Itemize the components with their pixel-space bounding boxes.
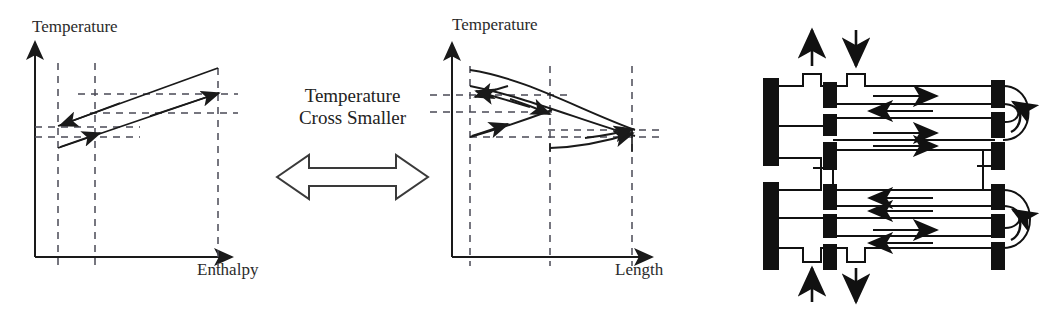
top-unit-shell [777, 74, 995, 176]
series-cold-second-pass [550, 128, 633, 152]
baffle-blocks-left [823, 82, 837, 270]
axes [452, 43, 652, 257]
annotation-text: Temperature Cross Smaller [265, 85, 440, 130]
plate-heat-exchanger-schematic [755, 0, 1063, 312]
series-hot-upper [470, 70, 635, 130]
temperature-length-plot: Temperature Length [430, 0, 730, 312]
comparison-annotation: Temperature Cross Smaller [265, 85, 440, 210]
mid-connector-ticks [813, 166, 993, 168]
series-cold-rising [470, 110, 552, 137]
annotation-line-2: Cross Smaller [265, 107, 440, 129]
double-headed-arrow-icon [277, 155, 428, 199]
end-plates-left [763, 78, 779, 270]
figure-root: Temperature Enthalpy [0, 0, 1063, 312]
return-bend-top [1003, 86, 1029, 140]
horizontal-gridlines [35, 94, 238, 137]
bottom-unit-shell [777, 172, 995, 262]
return-bend-bottom [1003, 190, 1030, 248]
baffle-blocks-right [991, 80, 1005, 270]
temperature-enthalpy-plot: Temperature Enthalpy [0, 0, 290, 312]
series-hot-stream [58, 68, 218, 126]
series-cold-stream [58, 93, 219, 148]
annotation-line-1: Temperature [265, 85, 440, 107]
return-flow-arrows [1011, 102, 1020, 240]
